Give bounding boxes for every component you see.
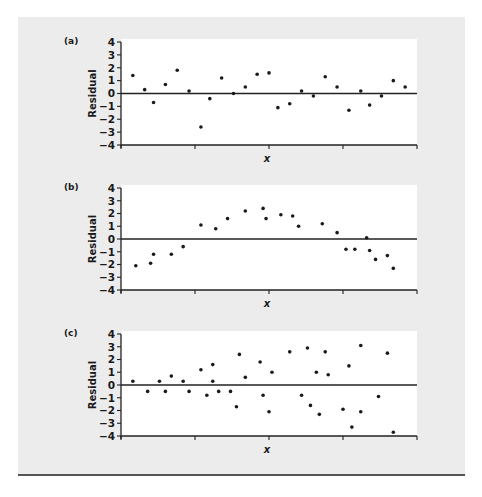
data-point <box>318 413 322 417</box>
y-tick-label: 4 <box>108 328 115 340</box>
data-point <box>392 267 396 271</box>
data-point <box>315 370 319 374</box>
residual-panel-a: 43210−1−2−3−4xResidual(a) <box>64 36 417 164</box>
data-point <box>353 247 357 251</box>
data-point <box>244 85 248 89</box>
data-point <box>291 214 295 218</box>
data-point <box>214 227 218 231</box>
data-point <box>187 89 191 93</box>
y-tick-label: 0 <box>108 379 115 391</box>
y-tick-label: 4 <box>108 182 115 194</box>
data-point <box>403 85 407 89</box>
data-point <box>211 363 215 367</box>
data-point <box>392 430 396 434</box>
y-tick-label: −1 <box>99 100 115 112</box>
data-point <box>323 350 327 354</box>
data-point <box>347 108 351 112</box>
data-point <box>365 236 369 240</box>
data-point <box>199 125 203 129</box>
y-tick-label: −2 <box>99 113 115 125</box>
data-point <box>279 213 283 217</box>
residual-panel-b: 43210−1−2−3−4xResidual(b) <box>64 182 417 309</box>
x-axis-label: x <box>263 153 271 164</box>
data-point <box>175 69 179 73</box>
data-point <box>309 404 313 408</box>
data-point <box>235 405 239 409</box>
data-point <box>208 97 212 101</box>
panel-label: (a) <box>64 36 78 46</box>
data-point <box>217 390 221 394</box>
panel-label: (c) <box>64 328 78 338</box>
data-point <box>199 223 203 227</box>
data-point <box>326 373 330 377</box>
y-axis-title: Residual <box>87 361 98 409</box>
y-tick-label: 3 <box>108 195 115 207</box>
data-point <box>368 249 372 253</box>
data-point <box>288 350 292 354</box>
residual-panel-c: 43210−1−2−3−4xResidual(c) <box>64 328 417 455</box>
data-point <box>158 379 162 383</box>
data-point <box>205 393 209 397</box>
data-point <box>312 94 316 98</box>
data-point <box>300 89 304 93</box>
y-tick-label: 4 <box>108 36 115 48</box>
data-point <box>341 407 345 411</box>
y-tick-label: −1 <box>99 392 115 404</box>
plot-area <box>121 185 417 290</box>
data-point <box>368 103 372 107</box>
y-tick-label: 0 <box>108 233 115 245</box>
y-axis-title: Residual <box>87 69 98 117</box>
x-axis-label: x <box>263 444 271 455</box>
y-tick-label: 0 <box>108 87 115 99</box>
data-point <box>181 245 185 249</box>
data-point <box>267 410 271 414</box>
data-point <box>255 72 259 76</box>
data-point <box>347 364 351 368</box>
y-tick-label: −3 <box>99 271 115 283</box>
data-point <box>359 410 363 414</box>
data-point <box>320 222 324 226</box>
data-point <box>149 261 153 265</box>
panel-label: (b) <box>64 182 79 192</box>
data-point <box>377 395 381 399</box>
data-point <box>258 360 262 364</box>
data-point <box>288 102 292 106</box>
data-point <box>229 390 233 394</box>
data-point <box>131 379 135 383</box>
data-point <box>238 353 242 357</box>
data-point <box>261 393 265 397</box>
data-point <box>152 101 156 105</box>
y-tick-label: −3 <box>99 126 115 138</box>
y-tick-label: 2 <box>108 353 115 365</box>
data-point <box>143 88 147 92</box>
data-point <box>220 76 224 80</box>
y-tick-label: −2 <box>99 258 115 270</box>
data-point <box>267 71 271 75</box>
data-point <box>335 231 339 235</box>
data-point <box>323 75 327 79</box>
x-axis-label: x <box>263 298 271 309</box>
data-point <box>386 351 390 355</box>
data-point <box>211 379 215 383</box>
data-point <box>134 264 138 268</box>
data-point <box>297 224 301 228</box>
data-point <box>335 85 339 89</box>
y-tick-label: −4 <box>99 430 115 442</box>
data-point <box>232 92 236 96</box>
y-tick-label: 3 <box>108 341 115 353</box>
data-point <box>131 74 135 78</box>
data-point <box>244 376 248 380</box>
y-tick-label: −4 <box>99 139 115 151</box>
y-tick-label: −3 <box>99 417 115 429</box>
data-point <box>199 368 203 372</box>
data-point <box>374 258 378 262</box>
data-point <box>146 390 150 394</box>
y-tick-label: −2 <box>99 404 115 416</box>
data-point <box>386 254 390 258</box>
data-point <box>187 390 191 394</box>
data-point <box>181 379 185 383</box>
data-point <box>350 425 354 429</box>
data-point <box>264 217 268 221</box>
data-point <box>244 209 248 213</box>
y-tick-label: 3 <box>108 49 115 61</box>
